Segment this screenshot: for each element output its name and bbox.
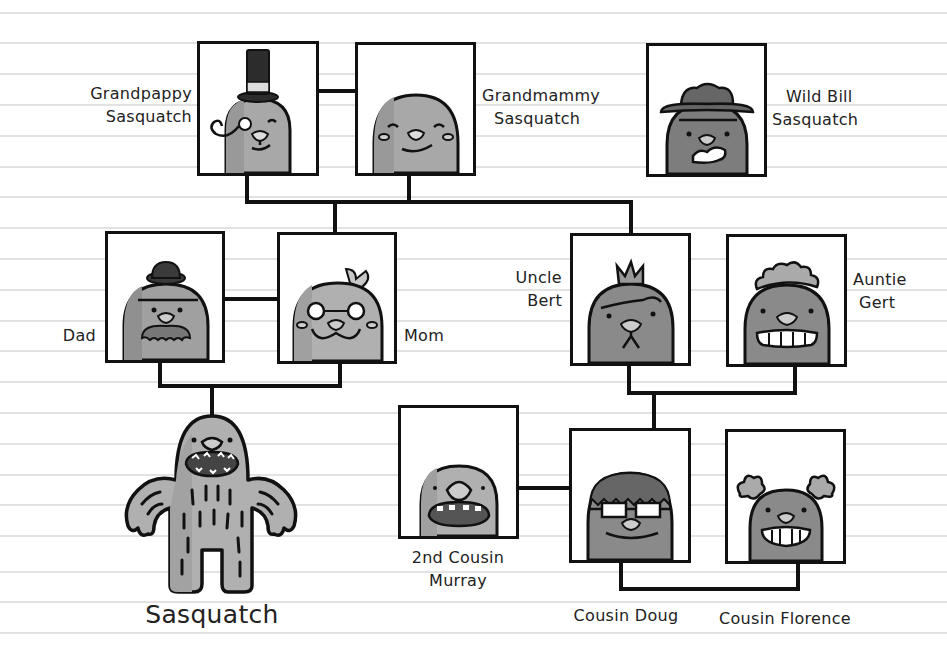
label-dad: Dad [40,324,96,347]
uncle-bert-tuft-icon [573,236,688,363]
label-line: Gert [853,291,923,314]
label-line: Auntie [853,268,923,291]
label-line: Cousin Doug [556,604,696,627]
label-line: Murray [398,569,518,592]
label-2nd-cousin-murray: 2nd Cousin Murray [398,546,518,592]
portrait-uncle-bert [570,233,691,366]
label-grandpappy: Grandpappy Sasquatch [70,82,192,128]
label-auntie-gert: Auntie Gert [853,268,923,314]
label-line: Mom [404,324,464,347]
label-wild-bill: Wild Bill Sasquatch [772,85,882,131]
label-line: Sasquatch [70,105,192,128]
portrait-2nd-cousin-murray [398,405,519,539]
portrait-auntie-gert [726,234,847,367]
cousin-doug-glasses-icon [572,431,688,560]
portrait-mom [277,232,397,364]
label-line: Bert [500,289,562,312]
label-line: Cousin Florence [700,607,870,630]
label-line: Wild Bill [772,85,882,108]
label-line: Sasquatch [120,600,304,630]
label-line: Sasquatch [482,107,622,130]
portrait-grandpappy [197,41,319,176]
portrait-dad [105,231,225,363]
grandmammy-face-icon [358,45,473,173]
cousin-florence-pigtails-icon [728,432,843,561]
label-line: Dad [40,324,96,347]
label-uncle-bert: Uncle Bert [500,266,562,312]
portrait-cousin-doug [569,428,691,563]
mom-bow-glasses-icon [280,235,394,361]
portrait-grandmammy [355,42,476,176]
label-sasquatch: Sasquatch [120,600,304,630]
portrait-wild-bill [646,43,767,177]
murray-face-icon [401,408,516,536]
wild-bill-cowboy-hat-icon [649,46,764,174]
dad-bowler-hat-mustache-icon [108,234,222,360]
grandpappy-top-hat-monocle-icon [200,44,316,173]
label-mom: Mom [404,324,464,347]
auntie-gert-curly-hair-icon [729,237,844,364]
label-line: Sasquatch [772,108,882,131]
sasquatch-full-body-icon [118,410,302,596]
label-grandmammy: Grandmammy Sasquatch [482,84,622,130]
label-line: 2nd Cousin [398,546,518,569]
portrait-cousin-florence [725,429,846,564]
label-cousin-florence: Cousin Florence [700,607,870,630]
label-line: Grandmammy [482,84,622,107]
label-line: Uncle [500,266,562,289]
label-line: Grandpappy [70,82,192,105]
label-cousin-doug: Cousin Doug [556,604,696,627]
